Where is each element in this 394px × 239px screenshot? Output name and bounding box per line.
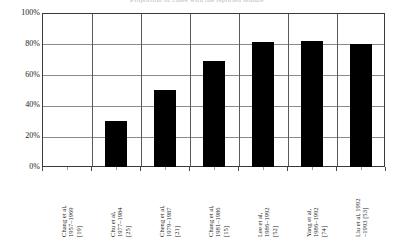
- y-tick-label: 80%: [2, 40, 40, 48]
- chart-title: Proportion of cases with the reported fe…: [0, 0, 394, 4]
- category-separator: [288, 14, 289, 166]
- plot-area: [42, 13, 385, 167]
- category-separator: [190, 14, 191, 166]
- x-tick-minor: [361, 167, 362, 170]
- y-tick-label: 100%: [2, 9, 40, 17]
- y-tick-label: 40%: [2, 101, 40, 109]
- gridline: [43, 137, 384, 138]
- x-tick-minor: [214, 167, 215, 170]
- x-category-label: Liu et al, 1992 –1993 [53]: [354, 171, 370, 237]
- x-tick: [385, 167, 386, 171]
- x-tick-minor: [263, 167, 264, 170]
- y-axis: 0%20%40%60%80%100%: [0, 13, 40, 167]
- x-category-label: Chu et al, 1977–1984 [25]: [109, 171, 125, 237]
- category-separator: [141, 14, 142, 166]
- category-separator: [337, 14, 338, 166]
- gridline: [43, 106, 384, 107]
- category-separator: [239, 14, 240, 166]
- gridline: [43, 75, 384, 76]
- x-tick-minor: [165, 167, 166, 170]
- x-tick-minor: [116, 167, 117, 170]
- x-category-label: Lee et al, 1986–1992 [52]: [256, 171, 272, 237]
- x-tick-minor: [67, 167, 68, 170]
- x-category-label: Chang et al, 1981–1986 [15]: [207, 171, 223, 237]
- x-category-label: Yang et al, 1986–1992 [74]: [305, 171, 321, 237]
- category-separator: [92, 14, 93, 166]
- x-axis-labels: Chang et al, 1957–1969 [19]Chu et al, 19…: [42, 171, 385, 239]
- x-category-label: Cheng et al, 1979–1987 [21]: [158, 171, 174, 237]
- gridline: [43, 44, 384, 45]
- bar-chart: Proportion of cases with the reported fe…: [0, 0, 394, 239]
- y-tick-label: 0%: [2, 163, 40, 171]
- y-tick-label: 60%: [2, 71, 40, 79]
- y-tick-label: 20%: [2, 132, 40, 140]
- x-category-label: Chang et al, 1957–1969 [19]: [60, 171, 76, 237]
- x-tick-minor: [312, 167, 313, 170]
